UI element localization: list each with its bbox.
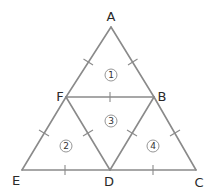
tick-DB: [127, 130, 137, 136]
vertex-labels: A F B E D C: [12, 9, 204, 190]
tick-FE: [39, 130, 49, 136]
tick-AB: [128, 59, 138, 65]
tick-FD: [83, 130, 93, 136]
vertex-label-F: F: [56, 89, 63, 104]
vertex-label-D: D: [104, 174, 114, 189]
region-4-marker: 4: [147, 140, 159, 152]
vertex-label-B: B: [158, 89, 167, 104]
region-4-label: 4: [150, 141, 156, 151]
vertex-label-E: E: [12, 173, 20, 188]
region-1-label: 1: [108, 70, 114, 80]
tick-AF: [84, 59, 94, 65]
edges: [22, 27, 196, 170]
triangle-diagram: A F B E D C 1 2 3 4: [0, 0, 214, 195]
vertex-label-A: A: [107, 9, 116, 24]
region-3-marker: 3: [105, 115, 117, 127]
vertex-label-C: C: [194, 175, 203, 190]
region-2-marker: 2: [60, 140, 72, 152]
region-2-label: 2: [63, 141, 69, 151]
region-1-marker: 1: [105, 69, 117, 81]
region-3-label: 3: [108, 116, 114, 126]
